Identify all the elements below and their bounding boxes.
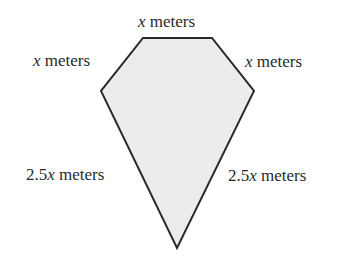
label-lower-right-side: 2.5x meters: [228, 166, 306, 185]
label-lower-right-unit: meters: [257, 166, 307, 185]
label-lower-left-coef: 2.5: [26, 165, 47, 184]
kite-shape: [101, 38, 254, 248]
label-upper-right-side: x meters: [244, 52, 302, 71]
label-upper-left-side: x meters: [32, 51, 90, 70]
label-upper-right-unit: meters: [253, 52, 303, 71]
label-lower-left-unit: meters: [55, 165, 105, 184]
label-top-unit: meters: [146, 12, 196, 31]
label-upper-left-unit: meters: [41, 51, 91, 70]
label-lower-left-side: 2.5x meters: [26, 165, 104, 184]
kite-diagram: x meters x meters x meters 2.5x meters 2…: [0, 0, 349, 269]
label-top-side: x meters: [137, 12, 195, 31]
label-lower-right-coef: 2.5: [228, 166, 249, 185]
